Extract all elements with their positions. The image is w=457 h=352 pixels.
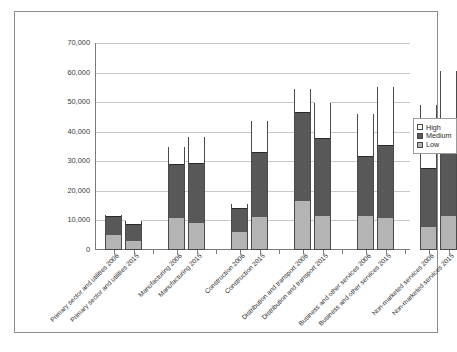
bar-segment-low [252, 217, 267, 249]
bar-segment-low [315, 216, 330, 249]
y-axis-line [95, 43, 96, 250]
y-tick-label: 70,000 [44, 39, 90, 46]
legend-item-medium[interactable]: Medium [417, 132, 452, 139]
x-axis-category-labels: Primary sector and utilities 2006Primary… [95, 252, 425, 347]
bar-segment-high [358, 113, 373, 156]
bar-segment-low [169, 218, 184, 249]
bar-9[interactable] [357, 114, 374, 250]
bar-segment-low [106, 235, 121, 249]
chart-legend: High Medium Low [413, 118, 457, 154]
gridline [95, 102, 410, 103]
bar-1[interactable] [105, 215, 122, 250]
bar-segment-low [358, 216, 373, 249]
bar-segment-low [295, 201, 310, 249]
y-tick-label: 50,000 [44, 98, 90, 105]
bar-8[interactable] [314, 103, 331, 250]
bar-segment-medium [232, 208, 247, 232]
bar-segment-high [106, 214, 121, 217]
bar-5[interactable] [231, 204, 248, 250]
bar-segment-medium [106, 216, 121, 235]
legend-label: Medium [426, 132, 452, 139]
bar-segment-high [315, 102, 330, 138]
plot-area [95, 43, 410, 250]
bar-segment-high [189, 136, 204, 162]
gridline [95, 73, 410, 74]
bar-segment-low [378, 218, 393, 249]
bar-2[interactable] [125, 221, 142, 250]
legend-label: Low [426, 141, 439, 148]
legend-label: High [426, 124, 441, 131]
bar-segment-high [378, 86, 393, 145]
bar-segment-high [169, 146, 184, 164]
bar-segment-high [295, 88, 310, 112]
y-axis-tick-labels: 70,000 60,000 50,000 40,000 30,000 20,00… [40, 43, 90, 250]
bar-segment-medium [169, 164, 184, 219]
legend-item-low[interactable]: Low [417, 141, 452, 148]
bar-7[interactable] [294, 89, 311, 250]
bar-segment-medium [295, 112, 310, 201]
y-tick-label: 60,000 [44, 69, 90, 76]
bar-segment-low [441, 216, 456, 249]
y-tick-label: 0 [44, 246, 90, 253]
bar-segment-medium [126, 224, 141, 241]
bar-10[interactable] [377, 87, 394, 250]
bar-segment-medium [358, 156, 373, 216]
bar-segment-low [232, 232, 247, 249]
bar-segment-high [126, 220, 141, 224]
bar-segment-medium [378, 145, 393, 218]
y-tick-label: 10,000 [44, 216, 90, 223]
bar-segment-medium [252, 152, 267, 217]
legend-item-high[interactable]: High [417, 124, 452, 131]
x-axis-label-9: Business and other services 2006 [297, 252, 372, 327]
bar-segment-medium [421, 168, 436, 227]
bar-12[interactable] [440, 71, 457, 250]
bar-segment-low [126, 241, 141, 249]
bar-6[interactable] [251, 121, 268, 250]
bar-segment-low [421, 227, 436, 249]
bar-segment-medium [441, 148, 456, 217]
legend-swatch-icon [417, 142, 423, 148]
y-tick-label: 40,000 [44, 128, 90, 135]
y-tick-label: 30,000 [44, 157, 90, 164]
legend-swatch-icon [417, 133, 423, 139]
bar-segment-medium [189, 163, 204, 223]
chart-frame: 70,000 60,000 50,000 40,000 30,000 20,00… [14, 11, 438, 333]
bar-4[interactable] [188, 137, 205, 250]
gridline [95, 43, 410, 44]
bar-segment-low [189, 223, 204, 249]
legend-swatch-icon [417, 124, 423, 130]
bar-segment-high [252, 120, 267, 152]
bar-3[interactable] [168, 147, 185, 251]
bar-segment-high [232, 203, 247, 208]
bar-segment-medium [315, 138, 330, 215]
y-tick-label: 20,000 [44, 187, 90, 194]
